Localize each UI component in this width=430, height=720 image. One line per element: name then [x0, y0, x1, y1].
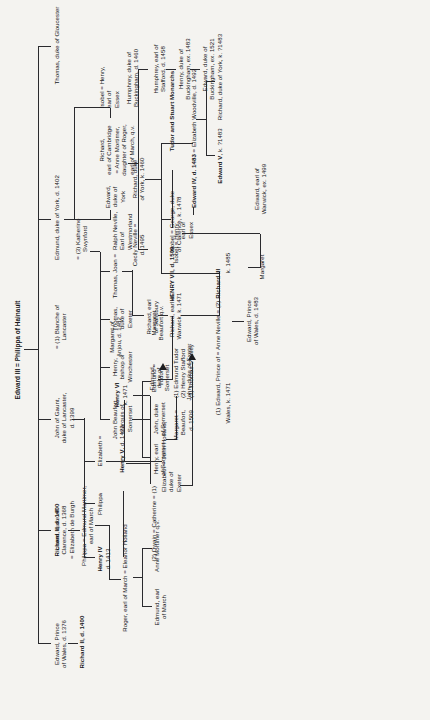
- connector-johnbeaufort-children-drop: [132, 419, 142, 420]
- connector-henryiv-henryv: [123, 491, 124, 557]
- connector-neville-bus: [132, 270, 133, 316]
- edward-v-name: Edward V: [216, 156, 223, 184]
- node-richard-duke-york: Richard, duke of York, k. 1460: [131, 144, 146, 214]
- node-elizabeth-john-holland: Elizabeth = John Holland, duke of Exeter: [160, 410, 182, 492]
- connector-holland-drop: [180, 485, 192, 486]
- connector-york-left-v: [74, 219, 110, 220]
- connector-salisbury-warwick: [158, 315, 168, 316]
- node-edward-iii-root: Edward III = Philippa of Hainault: [14, 275, 21, 425]
- connector-generation1-bus: [38, 47, 39, 644]
- richard-iii-line-a: (1) Edward, Prince of = Anne Neville = (…: [214, 299, 221, 415]
- node-edward-black-prince: Edward, Prince of Wales, d. 1376: [53, 601, 68, 687]
- node-humphrey-buckingham: Humphrey, duke of Buckingham, d. 1460: [125, 34, 140, 122]
- node-cecily-neville: Cecily Neville = d. 1495: [131, 208, 146, 282]
- node-katherine-swynford: = (3) Katherine Swynford: [74, 198, 89, 280]
- connector-clarence-children-v: [182, 233, 260, 234]
- connector-john-beaufort-drop: [100, 419, 110, 420]
- connector-gaunt-down: [72, 419, 84, 420]
- connector-thomas-exeter-drop: [100, 319, 110, 320]
- connector-richardyork4-drop: [206, 81, 215, 82]
- node-richard-salisbury: Richard, earl of Salisbury: [145, 286, 160, 348]
- connector-elizabeth-drop: [84, 461, 95, 462]
- node-isobel-george-clarence: Isobel = George, duke of Clarence, k. 14…: [168, 166, 183, 252]
- connector-katherine-drop: [90, 251, 100, 252]
- connector-edwardv-drop: [206, 155, 215, 156]
- connector-henry-winchester-drop: [100, 367, 110, 368]
- connector-roger-children-down: [133, 577, 142, 578]
- node-edward-buckingham: Edward, duke of Buckingham, ex. 1521: [201, 24, 216, 114]
- richard-iii-name: Richard III: [214, 269, 221, 299]
- connector-richardyork-children-bus: [161, 144, 162, 274]
- connector-lionel-down: [68, 530, 80, 531]
- connector-roger-children-bus: [142, 549, 143, 607]
- connector-edwardiv-v: [171, 143, 193, 144]
- node-humphrey-stafford: Humphrey, earl of Stafford, d. 1458: [152, 26, 167, 112]
- connector-edwardiv-drop: [161, 143, 171, 144]
- connector-edwardiv-tick: [193, 207, 194, 215]
- connector-stafford-henrybuck: [166, 69, 176, 70]
- node-john-of-gaunt: John of Gaunt, duke of Lancaster, d. 139…: [53, 364, 75, 472]
- connector-edwardbp-richardii: [68, 643, 78, 644]
- node-henry-winchester: Henry, bishop of Winchester: [111, 336, 133, 398]
- connector-henryv-vertical: [126, 463, 150, 464]
- chart-page: Edward III = Philippa of Hainault Edward…: [0, 0, 430, 720]
- connector-joan-drop: [100, 271, 110, 272]
- node-edward-warwick: Edward, earl of Warwick, ex. 1499: [253, 146, 268, 232]
- connector-richardiii-son: [232, 321, 244, 322]
- connector-g1-gloucester: [38, 46, 51, 47]
- node-philippa-edmund-mortimer: Philippa = Edmund Mortimer, earl of Marc…: [80, 472, 95, 580]
- connector-richardyork-children-drop: [145, 179, 161, 180]
- node-joan-beaufort: Thomas, Joan =: [111, 254, 118, 316]
- node-richard-warwick: Richard, earl of Warwick, k. 1471: [168, 282, 183, 350]
- connector-henry-somerset-drop: [142, 457, 151, 458]
- node-richard-iii-killed: k. 1485: [224, 226, 231, 300]
- connector-john-somerset-drop: [142, 419, 151, 420]
- arrow-to-tudor-line: [159, 363, 167, 370]
- node-richard-iii-marriage: (1) Edward, Prince of = Anne Neville = (…: [214, 226, 221, 458]
- node-edmund-york: Edmund, duke of York, d. 1402: [53, 155, 60, 280]
- connector-g1-gaunt: [38, 419, 51, 420]
- connector-edwardiv-children-drop: [196, 119, 206, 120]
- node-edward-iv: Edward IV, d. 1483 = Elizabeth Woodville…: [190, 18, 197, 208]
- connector-salisbury-drop: [132, 315, 144, 316]
- node-john-duke-exeter: John, duke of Exeter: [185, 324, 192, 420]
- node-richard-cambridge: Richard, earl of Cambridge = Anne Mortim…: [98, 112, 135, 188]
- node-henry-iv: Henry IV: [96, 530, 103, 588]
- rotated-chart-wrapper: Edward III = Philippa of Hainault Edward…: [0, 0, 430, 720]
- connector-gaunt-children-bus: [84, 418, 85, 558]
- genealogy-canvas: Edward III = Philippa of Hainault Edward…: [0, 0, 430, 720]
- node-philippa-lancaster: Philippa: [96, 480, 103, 528]
- node-isobel-essex: Isobel = Henry, earl of Essex: [98, 38, 120, 108]
- connector-root-down: [24, 349, 38, 350]
- connector-henryiv-drop: [84, 557, 95, 558]
- connector-johnbeaufort-children-bus: [142, 382, 143, 458]
- arrow-exeter-continues: [188, 353, 196, 360]
- node-edmund-somerset: Edmund, duke of Somerset: [148, 354, 170, 402]
- node-richard-ii-label: Richard II, d. 1400: [78, 600, 85, 684]
- node-elizabeth-eq: Elizabeth =: [96, 422, 103, 480]
- connector-edmund-march-drop: [142, 606, 152, 607]
- connector-york-bus: [74, 108, 75, 220]
- node-owain-catherine: (2) Owain = Catherine = (1): [150, 486, 157, 598]
- node-richard-duke-york-4: Richard, duke of York, k. ?1483: [216, 14, 223, 140]
- node-edward-prince-wales-1471: Wales, k. 1471: [224, 348, 231, 458]
- node-margaret-pole: Margaret: [258, 238, 265, 296]
- node-henry-iv-death: d. 1413: [104, 530, 111, 588]
- connector-g1-lionel: [38, 530, 51, 531]
- node-blanche-lancaster: = (1) Blanche of Lancaster: [53, 286, 68, 368]
- node-tudor-stuart-monarchs: Tudor and Stuart Monarchs: [168, 48, 175, 174]
- connector-beaufort-bus: [100, 252, 101, 420]
- edward-iv-consort: = Elizabeth Woodville, d. 1492: [190, 69, 197, 154]
- connector-philippa-drop: [84, 503, 95, 504]
- connector-elizabeth-holland-v: [106, 461, 162, 462]
- connector-catherine-bus: [150, 396, 151, 484]
- connector-g1-edward: [38, 643, 51, 644]
- connector-g1-york: [38, 219, 51, 220]
- edward-iv-name: Edward IV, d. 1483: [190, 154, 197, 208]
- connector-edwardiv-children-bus: [206, 82, 207, 156]
- node-thomas-gloucester: Thomas, duke of Gloucester: [53, 0, 60, 108]
- connector-neville-drop: [122, 271, 132, 272]
- connector-edmundyork-drop: [64, 219, 74, 220]
